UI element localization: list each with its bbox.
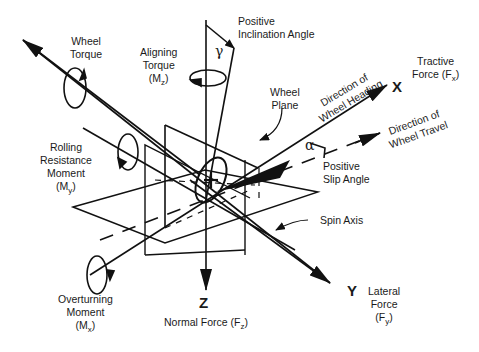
slip-angle-label: Positive Slip Angle	[323, 160, 370, 186]
alpha-symbol: α	[305, 137, 314, 153]
overturning-moment-label: Overturning Moment (Mx)	[58, 293, 113, 336]
rolling-line3: Moment	[40, 167, 92, 180]
rolling-resistance-label: Rolling Resistance Moment (My)	[40, 141, 92, 197]
y-axis-letter: Y	[347, 282, 357, 299]
inclination-line2: Inclination Angle	[238, 28, 314, 41]
tire-axis-diagram: Wheel Torque Aligning Torque (Mz) γ Posi…	[0, 0, 479, 352]
wheel-plane-line2: Plane	[270, 99, 300, 112]
z-axis-letter: Z	[199, 294, 208, 311]
overturning-line1: Overturning	[58, 293, 113, 306]
rolling-line1: Rolling	[40, 141, 92, 154]
wheel-torque-line1: Wheel	[70, 35, 102, 48]
rolling-symbol: (My)	[40, 180, 92, 197]
aligning-torque-line1: Aligning	[140, 46, 177, 59]
lateral-line2: Force	[368, 298, 400, 311]
overturning-line2: Moment	[58, 306, 113, 319]
lateral-symbol: (Fy)	[368, 311, 400, 328]
tractive-line1: Tractive	[412, 55, 459, 68]
wheel-torque-line2: Torque	[70, 48, 102, 61]
overturning-symbol: (Mx)	[58, 319, 113, 336]
slip-line1: Positive	[323, 160, 370, 173]
x-axis-letter: X	[392, 78, 402, 95]
normal-force-label: Normal Force (Fz)	[164, 316, 248, 333]
tractive-force-symbol: Force (Fx)	[412, 68, 459, 85]
lateral-force-label: Lateral Force (Fy)	[368, 285, 400, 328]
slip-line2: Slip Angle	[323, 173, 370, 186]
aligning-torque-label: Aligning Torque (Mz)	[140, 46, 177, 89]
aligning-torque-symbol: (Mz)	[140, 72, 177, 89]
spin-axis-label: Spin Axis	[320, 214, 363, 227]
wheel-torque-label: Wheel Torque	[70, 35, 102, 61]
inclination-angle-label: Positive Inclination Angle	[238, 15, 314, 41]
aligning-torque-loop	[190, 70, 226, 86]
gamma-symbol: γ	[215, 43, 223, 59]
wheel-plane-label: Wheel Plane	[270, 86, 300, 112]
wheel-plane-line1: Wheel	[270, 86, 300, 99]
tractive-force-label: Tractive Force (Fx)	[412, 55, 459, 85]
rolling-line2: Resistance	[40, 154, 92, 167]
lateral-line1: Lateral	[368, 285, 400, 298]
aligning-torque-line2: Torque	[140, 59, 177, 72]
inclination-line1: Positive	[238, 15, 314, 28]
